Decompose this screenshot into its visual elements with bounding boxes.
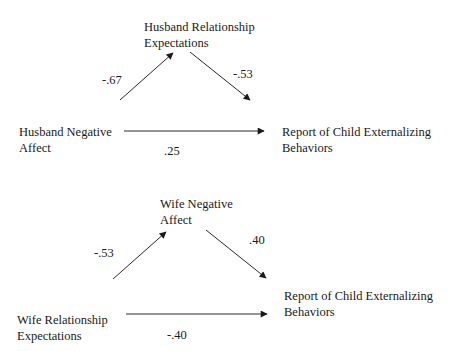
d1-predictor-node: Husband Negative Affect — [19, 124, 112, 156]
d2-path-b-coefficient: .40 — [249, 233, 265, 247]
d2-mediator-node: Wife Negative Affect — [160, 196, 233, 228]
d1-path-a-coefficient: -.67 — [102, 73, 122, 87]
d1-mediator-line2: Expectations — [144, 35, 255, 51]
d1-mediator-line1: Husband Relationship — [144, 19, 255, 35]
d2-path-a-arrow — [113, 232, 166, 279]
d1-path-c-coefficient: .25 — [164, 144, 180, 158]
d1-predictor-line2: Affect — [19, 140, 112, 156]
d1-path-b-coefficient: -.53 — [233, 67, 253, 81]
d1-predictor-line1: Husband Negative — [19, 124, 112, 140]
d2-mediator-line2: Affect — [160, 212, 233, 228]
d2-outcome-node: Report of Child Externalizing Behaviors — [284, 288, 433, 320]
d2-path-c-coefficient: -.40 — [167, 328, 187, 342]
d2-path-a-coefficient: -.53 — [94, 246, 114, 260]
d2-predictor-line2: Expectations — [17, 328, 108, 344]
d1-outcome-line1: Report of Child Externalizing — [282, 124, 431, 140]
d1-outcome-line2: Behaviors — [282, 140, 431, 156]
d2-mediator-line1: Wife Negative — [160, 196, 233, 212]
d2-predictor-line1: Wife Relationship — [17, 312, 108, 328]
d1-outcome-node: Report of Child Externalizing Behaviors — [282, 124, 431, 156]
d2-outcome-line1: Report of Child Externalizing — [284, 288, 433, 304]
d2-predictor-node: Wife Relationship Expectations — [17, 312, 108, 344]
d1-mediator-node: Husband Relationship Expectations — [144, 19, 255, 51]
d1-path-a-arrow — [120, 53, 173, 100]
d2-outcome-line2: Behaviors — [284, 304, 433, 320]
mediation-diagrams: Husband Relationship Expectations Husban… — [0, 0, 452, 351]
